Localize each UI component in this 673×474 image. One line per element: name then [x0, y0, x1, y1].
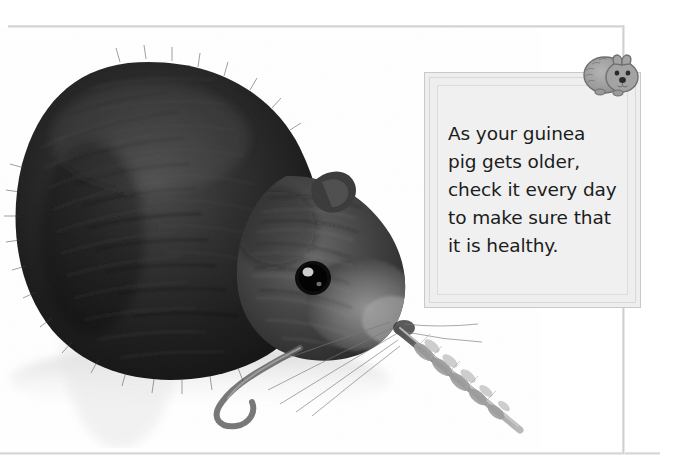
- caption-text: As your guinea pig gets older, check it …: [438, 120, 623, 261]
- guinea-pig-icon-graphic: [578, 44, 646, 100]
- caption-box: As your guinea pig gets older, check it …: [424, 72, 641, 308]
- bottom-horizontal-rule: [0, 452, 660, 455]
- caption-inner-panel: As your guinea pig gets older, check it …: [437, 85, 628, 295]
- book-page: As your guinea pig gets older, check it …: [0, 0, 673, 474]
- guinea-pig-icon: [578, 44, 646, 100]
